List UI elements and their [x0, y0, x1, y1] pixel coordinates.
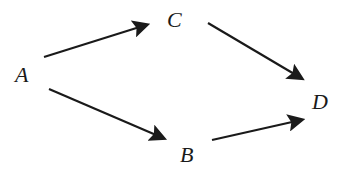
edge-c-to-d	[208, 23, 301, 78]
node-b-label: B	[180, 144, 193, 166]
edge-a-to-b	[49, 89, 163, 138]
node-d-label: D	[312, 91, 328, 113]
edge-a-to-c	[44, 25, 146, 57]
node-a-label: A	[15, 64, 28, 86]
node-c-label: C	[167, 9, 182, 31]
edge-b-to-d	[212, 120, 301, 140]
